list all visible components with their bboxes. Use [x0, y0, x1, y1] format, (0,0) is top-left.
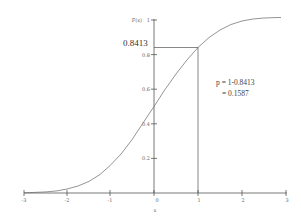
normal-cdf-chart: -3 -2 -1 0 1 2 3 x 1 0.8 0.6 0.4 0.2 F(x…: [0, 0, 301, 222]
y-axis-label: F(x): [132, 17, 142, 23]
marker-value-label: 0.8413: [123, 38, 148, 48]
x-tick-labels: -3 -2 -1 0 1 2 3: [22, 197, 289, 203]
x-axis-label: x: [154, 207, 157, 213]
svg-text:-1: -1: [108, 197, 113, 203]
annotation-line-2: = 0.1587: [222, 89, 249, 98]
svg-text:3: 3: [285, 197, 288, 203]
annotation-line-1: p = 1-0.8413: [216, 78, 255, 87]
svg-text:-3: -3: [22, 197, 27, 203]
svg-text:-2: -2: [65, 197, 70, 203]
svg-text:1: 1: [147, 17, 150, 23]
svg-text:0.2: 0.2: [142, 155, 150, 161]
cdf-curve: [24, 18, 281, 193]
svg-text:0.8: 0.8: [142, 52, 150, 58]
svg-text:0: 0: [155, 197, 158, 203]
svg-text:0.4: 0.4: [142, 121, 150, 127]
svg-text:1: 1: [197, 197, 200, 203]
svg-text:0.6: 0.6: [142, 86, 150, 92]
svg-text:2: 2: [241, 197, 244, 203]
